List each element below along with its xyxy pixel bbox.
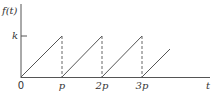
ramp-2	[62, 36, 102, 77]
x-axis-label: t	[206, 81, 210, 91]
sawtooth-series	[21, 36, 170, 77]
y-axis-label: f(t)	[2, 6, 18, 16]
dashed-drops	[62, 36, 142, 77]
ramp-3	[102, 36, 142, 77]
2p-label: 2p	[96, 81, 109, 91]
k-label: k	[12, 31, 18, 41]
ramp-4	[142, 49, 170, 77]
ramp-1	[21, 36, 62, 77]
origin-label: 0	[18, 81, 24, 91]
3p-label: 3p	[136, 81, 149, 91]
p-label: p	[59, 81, 65, 91]
